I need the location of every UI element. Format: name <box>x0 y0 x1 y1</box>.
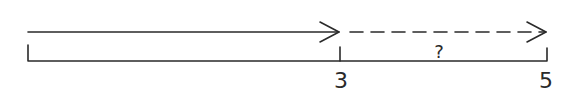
baseline-bracket <box>28 45 547 61</box>
number-line-diagram: ? 3 5 <box>0 0 580 98</box>
segment-unknown-label: ? <box>434 41 444 62</box>
tick-label-five: 5 <box>539 68 553 93</box>
dashed-arrow <box>350 22 546 42</box>
tick-label-three: 3 <box>334 68 348 93</box>
solid-arrow <box>28 22 339 42</box>
